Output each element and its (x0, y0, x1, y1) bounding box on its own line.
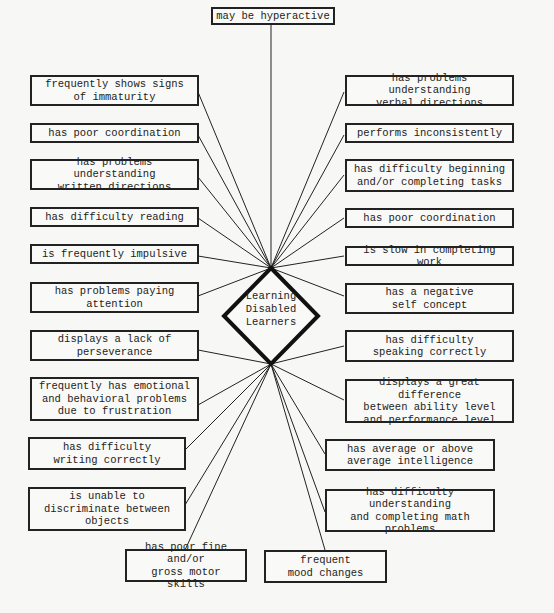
right-trait-box: has difficulty understanding and complet… (325, 489, 495, 532)
diagram: Learning Disabled Learners may be hypera… (0, 0, 554, 613)
center-concept-label: Learning Disabled Learners (224, 290, 318, 329)
right-trait-box: has difficulty beginning and/or completi… (345, 159, 514, 192)
top-trait-box: may be hyperactive (211, 7, 335, 25)
left-trait-box: has problems understanding written direc… (30, 159, 199, 190)
left-trait-box: has difficulty writing correctly (28, 437, 186, 470)
left-trait-box: frequently shows signs of immaturity (30, 75, 199, 106)
left-trait-box: has difficulty reading (30, 207, 199, 227)
right-trait-box: is slow in completing work (345, 246, 514, 266)
left-trait-box: is frequently impulsive (30, 244, 199, 264)
right-trait-box: displays a great difference between abil… (345, 379, 514, 423)
right-trait-box: has average or above average intelligenc… (325, 439, 495, 471)
left-trait-box: has poor coordination (30, 123, 199, 143)
right-trait-box: performs inconsistently (345, 123, 514, 143)
left-trait-box: displays a lack of perseverance (30, 330, 199, 361)
right-trait-box: has difficulty speaking correctly (345, 330, 514, 362)
left-trait-box: is unable to discriminate between object… (28, 487, 186, 531)
left-trait-box: has problems paying attention (30, 282, 199, 313)
right-trait-box: has a negative self concept (345, 283, 514, 314)
right-trait-box: has problems understanding verbal direct… (345, 75, 514, 106)
left-trait-box: frequently has emotional and behavioral … (30, 377, 199, 421)
bottom-trait-box: has poor fine and/or gross motor skills (125, 549, 247, 582)
bottom-trait-box: frequent mood changes (264, 550, 387, 583)
right-trait-box: has poor coordination (345, 208, 514, 228)
